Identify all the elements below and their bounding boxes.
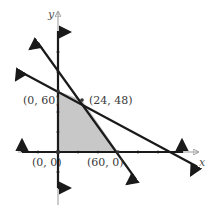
feasible-region-diagram: y x (0, 60) (24, 48) (0, 0) (60, 0)	[0, 0, 221, 206]
constraint-line-steep-upper	[30, 43, 38, 49]
y-axis-label: y	[47, 8, 55, 21]
constraint-line-shallow-upper	[16, 72, 21, 80]
vertex-0-60-dot	[56, 89, 60, 93]
vertex-label-60-0: (60, 0)	[87, 156, 124, 169]
axis-ticks	[38, 52, 158, 172]
vertex-label-0-0: (0, 0)	[32, 156, 62, 169]
vertex-label-0-60: (0, 60)	[23, 94, 60, 107]
vertex-60-0-dot	[116, 150, 120, 154]
vertex-24-48-dot	[80, 98, 84, 102]
x-axis-label: x	[199, 156, 206, 169]
vertex-label-24-48: (24, 48)	[89, 94, 133, 107]
vertex-origin-dot	[56, 150, 60, 154]
